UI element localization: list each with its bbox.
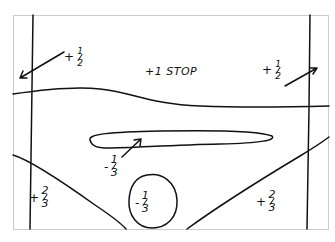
label-plus-one-stop: +1 STOP [145,66,197,77]
label-top-right-fraction: +12 [262,60,282,80]
center-oval [90,131,273,148]
label-circle-fraction: -13 [135,191,149,215]
label-center-oval-fraction: -13 [104,155,118,179]
arrow-top-left [20,52,64,78]
exposure-zone-diagram: +1 STOP +12 +12 -13 -13 +23 +23 [0,0,335,242]
label-bottom-right-fraction: +23 [256,190,276,214]
diagram-drawing [0,0,335,242]
arrow-top-right [285,68,317,86]
horizon-line [13,88,329,107]
label-bottom-left-fraction: +23 [29,186,49,210]
label-top-left-fraction: +12 [64,47,84,67]
frame-border [14,16,329,230]
right-vertical-line [307,15,310,229]
